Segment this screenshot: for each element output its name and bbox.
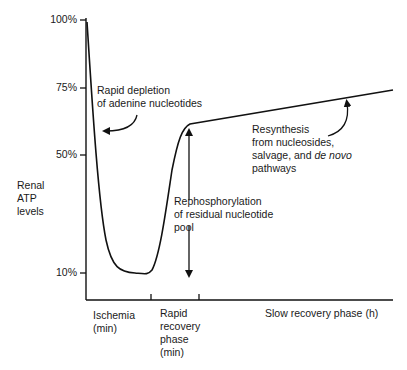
annotation-resynthesis: Resynthesis from nucleosides, salvage, a…: [252, 123, 352, 175]
y-axis-label: Renal ATP levels: [17, 179, 44, 218]
y-tick-50: 50%: [37, 148, 77, 160]
y-tick-10: 10%: [37, 266, 77, 278]
phase-rapid-recovery: Rapid recovery phase (min): [160, 307, 200, 359]
y-tick-75: 75%: [37, 81, 77, 93]
annotation-rephosphorylation: Rephosphorylation of residual nucleotide…: [174, 195, 273, 234]
phase-ischemia: Ischemia (min): [93, 309, 135, 335]
depletion-arrow: [106, 115, 137, 131]
annotation-rapid-depletion: Rapid depletion of adenine nucleotides: [97, 84, 202, 110]
y-tick-100: 100%: [37, 13, 77, 25]
phase-slow-recovery: Slow recovery phase (h): [265, 307, 378, 320]
